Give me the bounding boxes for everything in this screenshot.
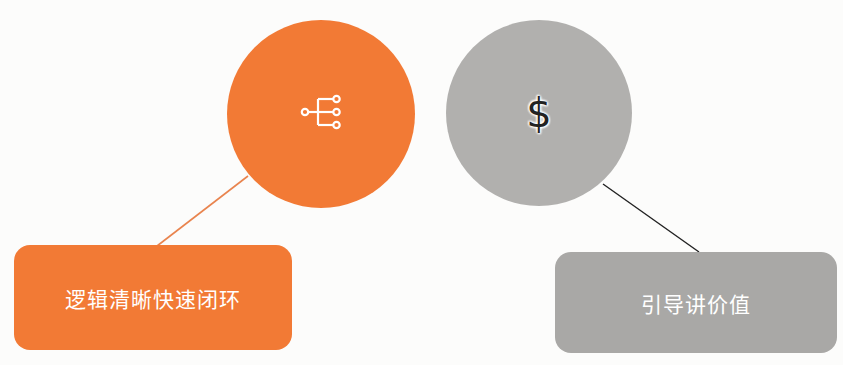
hierarchy-branch-icon: [296, 87, 346, 141]
gray-connector-line: [603, 184, 699, 252]
logic-label: 逻辑清晰快速闭环: [65, 283, 241, 313]
value-label-box: 引导讲价值: [555, 252, 837, 353]
logic-circle: [227, 20, 415, 208]
dollar-icon: $: [526, 93, 551, 133]
logic-label-box: 逻辑清晰快速闭环: [14, 245, 292, 350]
orange-connector-line: [157, 176, 248, 246]
value-circle: $: [446, 20, 632, 206]
value-label: 引导讲价值: [641, 288, 751, 318]
